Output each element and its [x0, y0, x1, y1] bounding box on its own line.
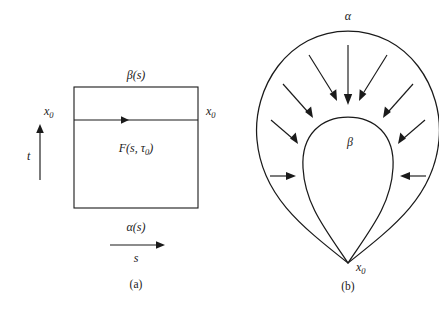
panel-a-caption: (a) — [130, 278, 143, 291]
homotopy-arrow-right-1 — [359, 55, 387, 101]
alpha-s-label: α(s) — [127, 220, 146, 234]
right-basepoint-label: x0 — [205, 104, 216, 120]
panel-b-caption: (b) — [341, 280, 355, 293]
panel-a: β(s) x0 x0 F(s, τ0) t α(s) s (a) — [27, 68, 216, 291]
homotopy-arrow-field — [270, 45, 426, 180]
homotopy-arrow-left-3 — [271, 120, 298, 144]
tau-level-arrowhead — [121, 116, 129, 124]
t-axis-arrowhead — [36, 124, 44, 133]
panel-b: α β x0 — [257, 9, 439, 293]
left-basepoint-label: x0 — [43, 104, 54, 120]
t-axis-label: t — [27, 149, 31, 163]
s-axis-arrowhead — [156, 241, 165, 249]
homotopy-arrow-right-2 — [383, 84, 413, 118]
s-axis-label: s — [134, 251, 139, 265]
basepoint-label: x0 — [355, 260, 366, 276]
homotopy-arrow-left-1 — [309, 55, 337, 101]
homotopy-arrow-left-2 — [283, 84, 313, 118]
figure-canvas: β(s) x0 x0 F(s, τ0) t α(s) s (a) α β x0 — [0, 0, 439, 310]
homotopy-map-label: F(s, τ0) — [118, 141, 154, 157]
homotopy-arrow-left-4 — [270, 172, 296, 180]
homotopy-arrow-right-4 — [400, 172, 426, 180]
alpha-label: α — [345, 9, 352, 23]
beta-s-label: β(s) — [126, 68, 146, 82]
beta-label: β — [346, 135, 353, 149]
homotopy-arrow-center — [344, 45, 352, 105]
homotopy-arrow-right-3 — [398, 120, 425, 144]
